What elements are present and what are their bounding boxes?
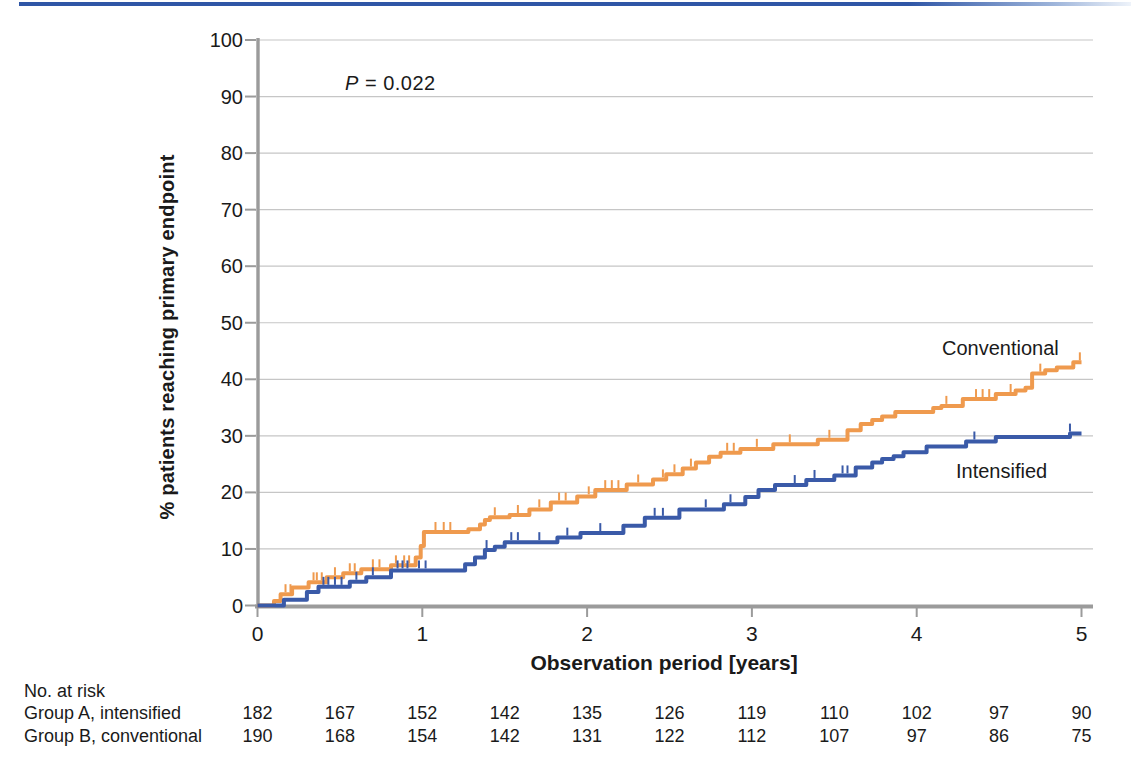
risk-count-cell: 126 [654,703,684,724]
x-tick-label: 2 [581,622,593,645]
risk-count-cell: 190 [242,726,272,747]
risk-table-row-label-conventional: Group B, conventional [24,726,202,747]
risk-count-cell: 97 [907,726,927,747]
y-tick-label: 100 [210,29,243,51]
risk-count-cell: 142 [490,703,520,724]
y-tick-label: 80 [221,142,243,164]
risk-count-cell: 142 [490,726,520,747]
risk-count-cell: 131 [572,726,602,747]
y-tick-label: 60 [221,255,243,277]
risk-table-title: No. at risk [24,681,105,702]
y-tick-label: 90 [221,86,243,108]
y-tick-label: 10 [221,538,243,560]
risk-count-cell: 75 [1071,726,1091,747]
risk-count-cell: 86 [989,726,1009,747]
p-value-annotation: P = 0.022 [345,72,436,95]
curve-conventional [258,362,1082,605]
risk-count-cell: 152 [407,703,437,724]
x-tick-label: 1 [416,622,428,645]
p-value-text: = 0.022 [359,72,436,94]
y-tick-label: 0 [232,595,243,617]
y-tick-label: 50 [221,312,243,334]
risk-count-cell: 107 [819,726,849,747]
risk-count-cell: 102 [902,703,932,724]
risk-count-cell: 182 [242,703,272,724]
y-tick-label: 40 [221,368,243,390]
series-label-conventional: Conventional [942,337,1059,360]
page-top-rule [19,2,1131,6]
risk-count-cell: 90 [1071,703,1091,724]
risk-table-row-label-intensified: Group A, intensified [24,703,181,724]
risk-count-cell: 168 [325,726,355,747]
y-tick-label: 30 [221,425,243,447]
x-axis-label: Observation period [years] [530,651,797,675]
risk-count-cell: 154 [407,726,437,747]
y-tick-label: 20 [221,481,243,503]
x-tick-label: 5 [1076,622,1088,645]
x-tick-label: 3 [746,622,758,645]
risk-count-cell: 112 [738,726,767,747]
figure-page: 0102030405060708090100012345 % patients … [0,0,1131,778]
risk-count-cell: 110 [820,703,849,724]
y-tick-label: 70 [221,199,243,221]
x-tick-label: 0 [252,622,264,645]
p-value-symbol: P [345,72,359,94]
risk-count-cell: 167 [325,703,355,724]
risk-count-cell: 135 [572,703,602,724]
series-label-intensified: Intensified [956,460,1047,483]
x-tick-label: 4 [911,622,923,645]
risk-count-cell: 97 [989,703,1009,724]
risk-count-cell: 119 [738,703,767,724]
y-axis-label: % patients reaching primary endpoint [156,154,179,519]
risk-count-cell: 122 [654,726,684,747]
